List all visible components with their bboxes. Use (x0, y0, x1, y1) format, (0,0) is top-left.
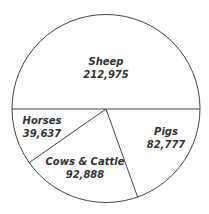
slice-label-cows-cattle: Cows & Cattle 92,888 (46, 155, 125, 181)
slice-name: Pigs (147, 125, 186, 138)
slice-value: 92,888 (46, 168, 125, 181)
pie-chart (0, 0, 209, 214)
slice-label-sheep: Sheep 212,975 (83, 55, 129, 81)
slice-value: 82,777 (147, 138, 186, 151)
slice-name: Sheep (83, 55, 129, 68)
slice-label-horses: Horses 39,637 (23, 114, 62, 140)
slice-value: 39,637 (23, 127, 62, 140)
slice-name: Cows & Cattle (46, 155, 125, 168)
slice-name: Horses (23, 114, 62, 127)
slice-label-pigs: Pigs 82,777 (147, 125, 186, 151)
slice-value: 212,975 (83, 68, 129, 81)
